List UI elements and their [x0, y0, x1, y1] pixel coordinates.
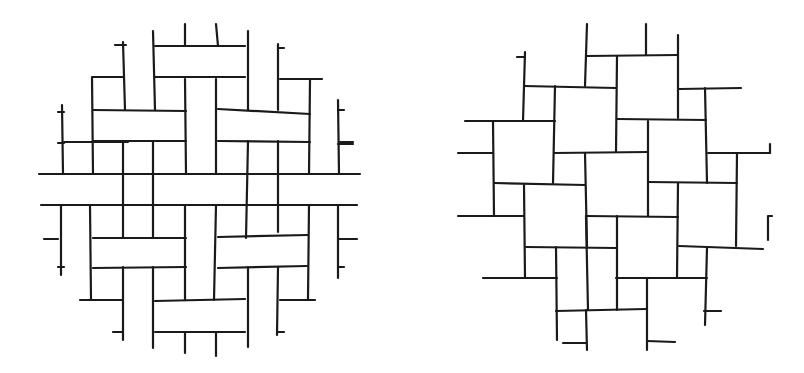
tile-edge-line: [155, 299, 245, 301]
tile-edge-line: [123, 42, 125, 110]
tile-edge-line: [679, 88, 741, 89]
tile-edge-line: [617, 119, 706, 120]
tile-edge-line: [647, 341, 675, 342]
tile-edge-line: [90, 205, 91, 300]
tile-edge-line: [218, 141, 310, 142]
tile-edge-line: [338, 100, 339, 174]
tile-edge-line: [92, 77, 93, 174]
tile-edge-line: [493, 121, 494, 216]
tile-edge-line: [705, 88, 707, 183]
tile-edge-line: [308, 205, 309, 299]
tile-edge-line: [93, 267, 186, 268]
tile-edge-line: [185, 79, 186, 174]
tile-edge-line: [524, 86, 616, 88]
tile-edge-line: [556, 309, 646, 311]
tile-edge-line: [93, 110, 186, 111]
tile-edge-line: [216, 24, 218, 46]
tile-edge-line: [494, 183, 585, 185]
tile-edge-line: [648, 182, 737, 183]
tile-edge-line: [554, 152, 648, 153]
tile-edge-line: [277, 267, 278, 335]
tile-edge-line: [524, 185, 525, 278]
tiling-illustration: [0, 0, 804, 373]
tile-edge-line: [553, 86, 555, 183]
tile-edge-line: [616, 56, 617, 152]
basket-weave-pattern: [39, 24, 360, 356]
tile-edge-line: [586, 310, 587, 350]
tile-edge-line: [677, 183, 678, 278]
tile-edge-line: [523, 52, 525, 121]
tile-edge-line: [214, 205, 216, 300]
tile-edge-line: [246, 141, 248, 238]
tile-edge-line: [679, 246, 763, 249]
tile-edge-line: [309, 80, 310, 174]
tile-edge-line: [585, 24, 587, 86]
tile-edge-line: [153, 31, 155, 110]
tile-edge-line: [586, 216, 678, 217]
tile-edge-line: [556, 247, 557, 340]
tile-edge-line: [218, 235, 308, 237]
tile-edge-line: [62, 105, 63, 174]
tile-edge-line: [736, 153, 737, 246]
pinwheel-square-pattern: [458, 24, 772, 350]
tile-edge-line: [526, 247, 616, 248]
tile-edge-line: [218, 266, 307, 268]
tile-edge-line: [587, 55, 678, 56]
tile-edge-line: [705, 248, 707, 325]
tile-edge-line: [218, 109, 310, 114]
